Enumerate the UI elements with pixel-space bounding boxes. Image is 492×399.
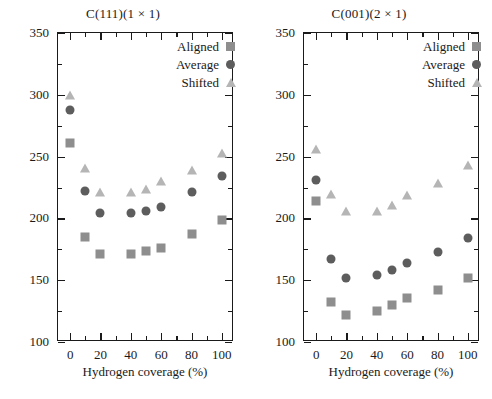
y-tick-major-mirror — [471, 157, 478, 158]
square-marker-icon — [225, 41, 236, 52]
data-point-shifted — [326, 189, 336, 198]
y-tick-minor — [304, 249, 308, 250]
x-tick-label: 40 — [370, 347, 383, 363]
y-tick-major — [58, 95, 65, 96]
legend-c001: Aligned Average Shifted — [422, 38, 482, 91]
panel-title-c001: C(001)(2 × 1) — [246, 6, 492, 22]
x-tick-major-mirror — [316, 33, 317, 40]
y-tick-minor — [58, 249, 62, 250]
legend-label-shifted: Shifted — [427, 76, 465, 89]
data-point-shifted — [217, 148, 227, 157]
x-tick-label: 60 — [401, 347, 414, 363]
y-tick-major-mirror — [471, 33, 478, 34]
x-tick-minor-mirror — [362, 33, 363, 37]
x-tick-label: 80 — [431, 347, 444, 363]
data-point-average — [342, 273, 351, 282]
x-tick-minor — [116, 336, 117, 340]
x-tick-label: 80 — [185, 347, 198, 363]
x-tick-minor-mirror — [116, 33, 117, 37]
data-point-shifted — [387, 200, 397, 209]
x-tick-label: 100 — [458, 347, 478, 363]
data-point-average — [312, 176, 321, 185]
circle-marker-icon — [471, 59, 482, 70]
y-tick-minor — [58, 188, 62, 189]
y-tick-major — [304, 33, 311, 34]
x-axis-title-right: Hydrogen coverage (%) — [303, 364, 479, 380]
y-tick-major — [58, 342, 65, 343]
x-tick-major — [468, 333, 469, 340]
y-tick-minor-mirror — [474, 126, 478, 127]
y-tick-label: 200 — [276, 210, 296, 226]
triangle-marker-icon — [471, 77, 482, 88]
data-point-average — [81, 187, 90, 196]
x-tick-major — [407, 333, 408, 340]
data-point-shifted — [187, 166, 197, 175]
y-tick-major-mirror — [471, 342, 478, 343]
y-tick-minor-mirror — [228, 311, 232, 312]
data-point-aligned — [312, 197, 321, 206]
x-axis-title-left: Hydrogen coverage (%) — [57, 364, 233, 380]
data-point-shifted — [65, 90, 75, 99]
y-tick-major-mirror — [225, 33, 232, 34]
data-point-aligned — [217, 215, 226, 224]
x-tick-major-mirror — [346, 33, 347, 40]
data-point-shifted — [95, 188, 105, 197]
x-tick-minor — [422, 336, 423, 340]
x-tick-major — [377, 333, 378, 340]
data-point-shifted — [372, 206, 382, 215]
x-tick-minor-mirror — [422, 33, 423, 37]
data-point-shifted — [463, 161, 473, 170]
legend-label-shifted: Shifted — [181, 76, 219, 89]
x-tick-label: 0 — [313, 347, 320, 363]
y-tick-major — [58, 280, 65, 281]
legend-item-aligned: Aligned — [423, 38, 482, 55]
data-point-aligned — [66, 139, 75, 148]
x-tick-major — [161, 333, 162, 340]
y-tick-major — [304, 157, 311, 158]
y-tick-label: 300 — [276, 87, 296, 103]
y-tick-major — [304, 342, 311, 343]
y-tick-major — [304, 280, 311, 281]
data-point-average — [217, 172, 226, 181]
legend-item-shifted: Shifted — [181, 74, 236, 91]
y-tick-major-mirror — [471, 95, 478, 96]
x-tick-minor — [331, 336, 332, 340]
data-point-average — [372, 271, 381, 280]
y-tick-label: 350 — [276, 25, 296, 41]
y-tick-label: 100 — [30, 334, 50, 350]
y-tick-major-mirror — [225, 95, 232, 96]
data-point-average — [142, 206, 151, 215]
y-tick-minor — [304, 126, 308, 127]
data-point-average — [157, 203, 166, 212]
x-tick-minor-mirror — [176, 33, 177, 37]
data-point-aligned — [463, 273, 472, 282]
legend-label-average: Average — [176, 58, 219, 71]
y-tick-minor-mirror — [228, 249, 232, 250]
circle-marker-icon — [225, 59, 236, 70]
x-tick-minor-mirror — [392, 33, 393, 37]
data-point-shifted — [341, 206, 351, 215]
x-tick-major — [192, 333, 193, 340]
data-point-aligned — [81, 232, 90, 241]
x-tick-minor — [362, 336, 363, 340]
y-tick-label: 350 — [30, 25, 50, 41]
y-tick-minor — [304, 188, 308, 189]
y-tick-major — [304, 95, 311, 96]
data-point-aligned — [96, 250, 105, 259]
y-tick-minor — [58, 126, 62, 127]
data-point-aligned — [342, 310, 351, 319]
legend-label-aligned: Aligned — [177, 40, 219, 53]
x-tick-label: 20 — [94, 347, 107, 363]
data-point-average — [388, 266, 397, 275]
y-tick-label: 200 — [30, 210, 50, 226]
y-tick-label: 250 — [30, 149, 50, 165]
x-tick-major — [70, 333, 71, 340]
x-tick-minor-mirror — [85, 33, 86, 37]
data-point-aligned — [142, 246, 151, 255]
y-tick-major — [58, 157, 65, 158]
y-tick-label: 250 — [276, 149, 296, 165]
x-tick-minor-mirror — [207, 33, 208, 37]
x-tick-minor — [85, 336, 86, 340]
data-point-shifted — [80, 163, 90, 172]
x-tick-minor — [453, 336, 454, 340]
